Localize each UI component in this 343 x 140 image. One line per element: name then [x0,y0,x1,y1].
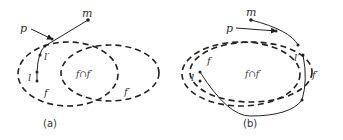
arrow-p [236,28,276,31]
diagram-canvas: m p l′ l f f′ f∩f′ (a) m p l′ l f f′ f∩f… [0,0,343,140]
set-f-ellipse [18,42,118,106]
label-f-prime: f′ [311,69,319,80]
node-lprime [302,54,305,57]
arrow-p [31,29,52,39]
label-l-prime: l′ [294,52,300,63]
label-l-prime: l′ [44,51,50,62]
node-l-top [36,71,39,74]
label-f-prime: f′ [123,86,131,97]
edge-lprime-to-l [200,55,305,116]
caption-a: (a) [43,118,57,129]
set-f-ellipse [182,42,300,106]
label-f: f [206,55,213,66]
node-lprime [39,54,42,57]
label-l: l [191,72,194,83]
label-f: f [43,87,50,98]
node-junction [297,44,300,47]
label-p: p [226,22,233,35]
node-l-bottom [199,80,202,83]
label-m: m [82,7,92,20]
node-p-target [51,38,54,41]
caption-b: (b) [243,118,257,129]
node-junction [44,45,47,48]
node-l-bottom [36,80,39,83]
node-l-top [199,71,202,74]
label-intersection: f∩f′ [75,69,92,79]
panel-a: m p l′ l f f′ f∩f′ (a) [18,7,159,129]
label-l: l [28,72,31,83]
panel-b: m p l′ l f f′ f∩f′ (b) [182,6,319,129]
label-m: m [246,6,256,19]
label-intersection: f∩f′ [244,69,261,79]
node-p-target [275,30,278,33]
node-exit [301,99,304,102]
label-p: p [20,22,27,35]
edge-m-to-lprime [251,20,298,45]
